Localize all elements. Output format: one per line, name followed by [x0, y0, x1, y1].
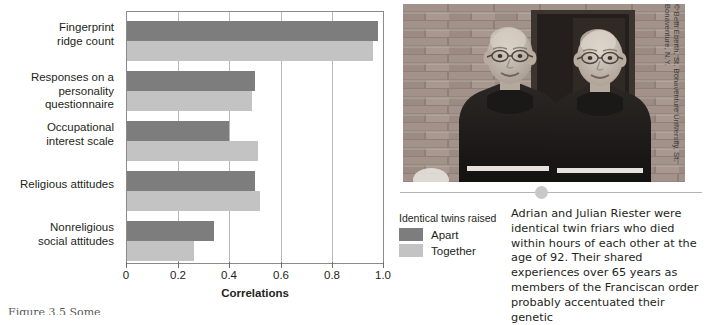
category-axis-labels: Fingerprint ridge count Responses on a p… [0, 11, 120, 262]
category-label-fingerprint-ridge-count: Fingerprint ridge count [0, 21, 114, 48]
legend-item-together: Together [399, 244, 507, 257]
category-label-religious-attitudes: Religious attitudes [0, 178, 114, 192]
correlations-bar-chart: Fingerprint ridge count Responses on a p… [0, 0, 396, 300]
legend-item-apart: Apart [399, 228, 507, 241]
x-axis-ticks [126, 262, 384, 268]
category-label-line: Fingerprint [0, 21, 114, 35]
bar-nonreligious-social-attitudes-apart [127, 221, 214, 241]
legend-swatch-apart-icon [399, 228, 423, 241]
x-tick-0.4 [229, 262, 230, 268]
x-tick-1.0 [383, 262, 384, 268]
figure-caption: Adrian and Julian Riester were identical… [511, 207, 701, 325]
photo-image [403, 4, 685, 182]
x-tick-label-0.2: 0.2 [158, 269, 198, 281]
category-label-personality-questionnaire: Responses on a personality questionnaire [0, 71, 114, 112]
category-label-line: Occupational [0, 121, 114, 135]
x-tick-label-0: 0 [106, 269, 146, 281]
x-tick-0.2 [178, 262, 179, 268]
x-tick-0.6 [281, 262, 282, 268]
photo-credit: © Beth Eberth, St. Bonaventure Universit… [657, 4, 681, 182]
legend-title: Identical twins raised [399, 212, 507, 224]
bar-religious-attitudes-together [127, 191, 260, 211]
plot-area [126, 11, 384, 264]
x-tick-label-0.8: 0.8 [312, 269, 352, 281]
bar-fingerprint-ridge-count-apart [127, 21, 378, 41]
x-tick-label-1.0: 1.0 [363, 269, 403, 281]
x-tick-0.8 [332, 262, 333, 268]
x-tick-label-0.4: 0.4 [209, 269, 249, 281]
category-label-line: ridge count [0, 35, 114, 49]
twin-friars-photo [403, 4, 685, 182]
legend-label-apart: Apart [431, 229, 459, 241]
bar-occupational-interest-scale-apart [127, 121, 229, 141]
legend-label-together: Together [431, 245, 476, 257]
x-tick-label-0.6: 0.6 [261, 269, 301, 281]
category-label-line: Nonreligious [0, 221, 114, 235]
bar-fingerprint-ridge-count-together [127, 41, 373, 61]
x-tick-0 [126, 262, 127, 268]
divider-dot-icon [535, 186, 548, 199]
bar-personality-questionnaire-apart [127, 71, 255, 91]
bar-personality-questionnaire-together [127, 91, 252, 111]
category-label-line: personality questionnaire [0, 85, 114, 112]
cropped-figure-number: Figure 3.5 Some [8, 306, 208, 315]
category-label-nonreligious-social-attitudes: Nonreligious social attitudes [0, 221, 114, 248]
category-label-line: Religious attitudes [0, 178, 114, 192]
bar-religious-attitudes-apart [127, 171, 255, 191]
section-divider [400, 192, 702, 193]
category-label-line: interest scale [0, 135, 114, 149]
bar-nonreligious-social-attitudes-together [127, 241, 194, 261]
chart-legend: Identical twins raised Apart Together [399, 212, 507, 260]
category-label-occupational-interest-scale: Occupational interest scale [0, 121, 114, 148]
x-axis-title: Correlations [126, 287, 384, 299]
category-label-line: Responses on a [0, 71, 114, 85]
legend-swatch-together-icon [399, 244, 423, 257]
category-label-line: social attitudes [0, 235, 114, 249]
bar-occupational-interest-scale-together [127, 141, 258, 161]
